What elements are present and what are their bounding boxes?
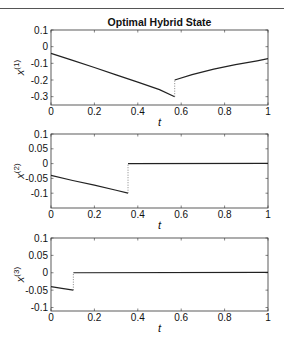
x-tick-label: 0.4 [131, 106, 145, 117]
x-tick-label: 1 [265, 312, 271, 323]
y-tick-label: 0 [42, 158, 48, 169]
x-tick-label: 0.6 [174, 106, 188, 117]
x-axis-label: t [158, 116, 162, 128]
x-tick-label: 0.2 [87, 106, 101, 117]
x-tick-label: 0.8 [218, 312, 232, 323]
figure: 00.20.40.60.810.10-0.1-0.2-0.3tx(1)Optim… [0, 0, 284, 344]
y-axis-label: x(2) [12, 163, 26, 180]
y-tick-label: 0.05 [29, 143, 49, 154]
series-line [175, 59, 268, 80]
y-tick-label: -0.1 [31, 302, 49, 313]
subplot-3: 00.20.40.60.810.10.050-0.05-0.1tx(3) [12, 233, 271, 335]
y-tick-label: -0.3 [31, 91, 49, 102]
y-tick-label: -0.05 [25, 173, 48, 184]
y-tick-label: -0.05 [25, 285, 48, 296]
x-tick-label: 0.6 [174, 209, 188, 220]
x-tick-label: 0.6 [174, 312, 188, 323]
y-tick-label: 0.1 [34, 233, 48, 244]
x-tick-label: 1 [265, 106, 271, 117]
x-tick-label: 0 [48, 106, 54, 117]
y-tick-label: -0.1 [31, 188, 49, 199]
y-tick-label: 0.1 [34, 129, 48, 140]
chart-title: Optimal Hybrid State [108, 16, 212, 28]
subplot-2: 00.20.40.60.810.10.050-0.05-0.1tx(2) [12, 129, 271, 232]
x-axis-label: t [158, 219, 162, 231]
y-tick-label: 0 [42, 41, 48, 52]
y-tick-label: -0.1 [31, 58, 49, 69]
y-tick-label: -0.2 [31, 75, 49, 86]
y-axis-label: x(1) [12, 60, 26, 77]
series-line [51, 53, 175, 96]
x-tick-label: 0 [48, 312, 54, 323]
axes-box [51, 134, 268, 208]
axes-box [51, 238, 268, 311]
y-tick-label: 0.05 [29, 250, 49, 261]
x-tick-label: 0 [48, 209, 54, 220]
x-tick-label: 1 [265, 209, 271, 220]
x-tick-label: 0.4 [131, 312, 145, 323]
x-tick-label: 0.8 [218, 209, 232, 220]
series-line [51, 175, 128, 193]
x-tick-label: 0.8 [218, 106, 232, 117]
x-tick-label: 0.2 [87, 209, 101, 220]
x-axis-label: t [158, 322, 162, 334]
y-tick-label: 0.1 [34, 25, 48, 36]
y-axis-label: x(3) [12, 267, 26, 284]
subplot-1: 00.20.40.60.810.10-0.1-0.2-0.3tx(1)Optim… [12, 16, 271, 128]
axes-box [51, 30, 268, 105]
x-tick-label: 0.2 [87, 312, 101, 323]
y-tick-label: 0 [42, 267, 48, 278]
series-line [51, 287, 73, 290]
x-tick-label: 0.4 [131, 209, 145, 220]
